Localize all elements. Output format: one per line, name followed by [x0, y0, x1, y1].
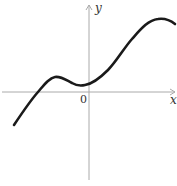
function-curve	[14, 19, 175, 125]
function-graph: y x 0	[0, 0, 177, 186]
origin-label: 0	[80, 93, 87, 106]
y-axis-label: y	[94, 1, 102, 15]
x-axis-label: x	[170, 93, 177, 107]
